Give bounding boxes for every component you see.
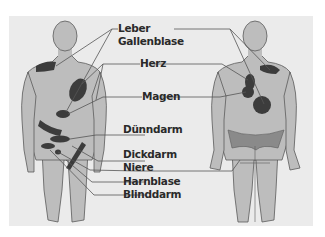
label-dickdarm: Dickdarm (123, 149, 177, 160)
label-blinddarm: Blinddarm (123, 189, 181, 200)
area-magen-back (242, 86, 254, 98)
label-leber: Leber (118, 23, 150, 34)
area-dickdarm-front (41, 143, 55, 149)
area-duenndarm-front (50, 136, 70, 143)
area-magen-front (56, 110, 70, 118)
label-duenndarm: Dünndarm (123, 124, 182, 135)
front-figure (22, 21, 107, 222)
label-niere: Niere (123, 162, 153, 173)
label-gallenblase: Gallenblase (118, 36, 184, 47)
label-harnblase: Harnblase (123, 176, 180, 187)
label-magen: Magen (142, 91, 180, 102)
label-herz: Herz (140, 58, 166, 69)
